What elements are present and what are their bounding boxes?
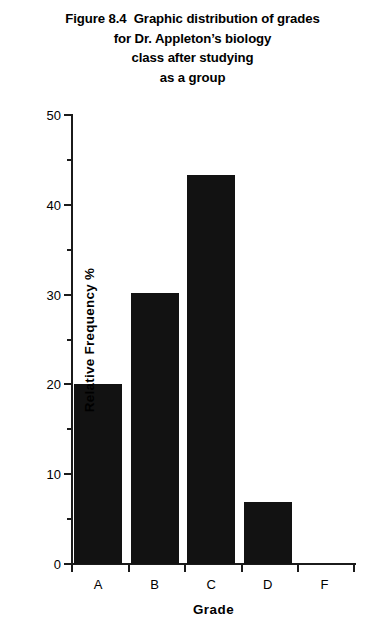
chart-title-line-1: Figure 8.4 Graphic distribution of grade…: [0, 9, 385, 29]
y-minor-tick-15: [67, 428, 72, 430]
x-tick-0: [71, 565, 73, 572]
chart-title-line-4: as a group: [0, 68, 385, 88]
x-tick-label-D: D: [263, 578, 272, 592]
y-tick-label-20: 20: [47, 378, 61, 391]
x-tick-label-C: C: [206, 578, 215, 592]
y-tick-label-40: 40: [47, 198, 61, 211]
x-tick-label-B: B: [150, 578, 159, 592]
x-tick-label-F: F: [320, 578, 328, 592]
bar-B: [131, 293, 179, 564]
y-minor-tick-25: [67, 339, 72, 341]
y-tick-40: [64, 204, 72, 206]
y-tick-10: [64, 473, 72, 475]
y-minor-tick-5: [67, 518, 72, 520]
y-tick-30: [64, 294, 72, 296]
chart-title: Figure 8.4 Graphic distribution of grade…: [0, 9, 385, 87]
plot-area: 0 10 20 30 40 50 A B C D F Relative Freq…: [72, 115, 355, 564]
x-axis-title: Grade: [72, 602, 355, 617]
y-tick-20: [64, 383, 72, 385]
y-minor-tick-35: [67, 249, 72, 251]
bar-D: [244, 502, 292, 564]
y-tick-50: [64, 114, 72, 116]
chart-title-line-3: class after studying: [0, 48, 385, 68]
y-minor-tick-45: [67, 159, 72, 161]
y-tick-label-30: 30: [47, 288, 61, 301]
y-tick-label-10: 10: [47, 468, 61, 481]
x-tick-3: [241, 565, 243, 572]
x-tick-1: [128, 565, 130, 572]
x-tick-5: [353, 565, 355, 572]
x-tick-label-A: A: [94, 578, 103, 592]
x-tick-2: [184, 565, 186, 572]
y-tick-label-0: 0: [54, 558, 61, 571]
y-tick-label-50: 50: [47, 109, 61, 122]
y-axis-title: Relative Frequency %: [80, 190, 100, 490]
chart-title-line-2: for Dr. Appleton’s biology: [0, 29, 385, 49]
bar-C: [187, 175, 235, 564]
x-tick-4: [297, 565, 299, 572]
